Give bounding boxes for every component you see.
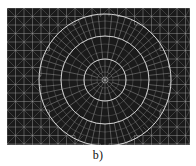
mesh-image-panel xyxy=(7,8,190,145)
figure-root: b) xyxy=(0,0,196,166)
mesh-svg xyxy=(7,8,190,145)
figure-caption: b) xyxy=(0,147,196,163)
